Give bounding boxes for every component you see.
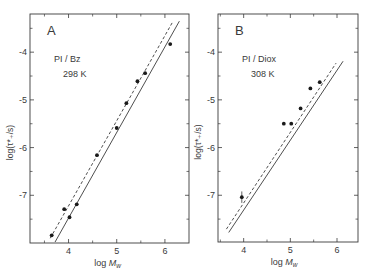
panel-b: 456-4-5-6-7log Mwlog(τ*₊/s)BPI / Diox308… bbox=[193, 14, 358, 268]
panel-a: 456-4-5-6-7log Mwlog(τ*₊/s)API / Bz298 K bbox=[5, 14, 189, 269]
plot-frame bbox=[218, 14, 358, 242]
annotation-temperature: 298 K bbox=[63, 69, 87, 79]
y-tick-label: -5 bbox=[207, 95, 215, 105]
data-point bbox=[50, 233, 54, 237]
data-point bbox=[168, 42, 172, 46]
data-point bbox=[95, 153, 99, 157]
y-tick-label: -6 bbox=[19, 143, 27, 153]
panel-label: B bbox=[235, 23, 244, 38]
annotation-sample: PI / Diox bbox=[242, 54, 277, 64]
x-tick-label: 5 bbox=[288, 245, 293, 255]
data-point bbox=[282, 122, 286, 126]
y-tick-label: -5 bbox=[19, 95, 27, 105]
y-axis-label: log(τ*₊/s) bbox=[193, 124, 203, 159]
y-tick-label: -4 bbox=[19, 47, 27, 57]
x-axis-label: log Mw bbox=[271, 257, 299, 268]
dashed-fit-line bbox=[226, 63, 336, 229]
data-point bbox=[318, 80, 322, 84]
x-tick-label: 6 bbox=[162, 246, 167, 256]
y-tick-label: -7 bbox=[19, 190, 27, 200]
x-tick-label: 4 bbox=[241, 245, 246, 255]
data-point bbox=[299, 107, 303, 111]
x-tick-label: 6 bbox=[334, 245, 339, 255]
data-point bbox=[136, 79, 140, 83]
data-point bbox=[124, 101, 128, 105]
data-point bbox=[240, 195, 244, 199]
data-point bbox=[143, 71, 147, 75]
panel-label: A bbox=[47, 23, 56, 38]
annotation-temperature: 308 K bbox=[251, 69, 275, 79]
y-tick-label: -4 bbox=[207, 47, 215, 57]
data-point bbox=[68, 215, 72, 219]
solid-fit-line bbox=[229, 61, 343, 232]
data-point bbox=[289, 122, 293, 126]
y-axis-label: log(τ*₊/s) bbox=[5, 125, 15, 160]
annotation-sample: PI / Bz bbox=[54, 54, 81, 64]
y-tick-label: -6 bbox=[207, 143, 215, 153]
data-point bbox=[75, 202, 79, 206]
data-point bbox=[62, 207, 66, 211]
figure: 456-4-5-6-7log Mwlog(τ*₊/s)API / Bz298 K… bbox=[0, 0, 368, 276]
y-tick-label: -7 bbox=[207, 190, 215, 200]
x-tick-label: 4 bbox=[66, 246, 71, 256]
x-axis-label: log Mw bbox=[94, 258, 122, 269]
data-point bbox=[309, 87, 313, 91]
x-tick-label: 5 bbox=[114, 246, 119, 256]
data-point bbox=[115, 126, 119, 130]
plot-frame bbox=[30, 14, 189, 243]
